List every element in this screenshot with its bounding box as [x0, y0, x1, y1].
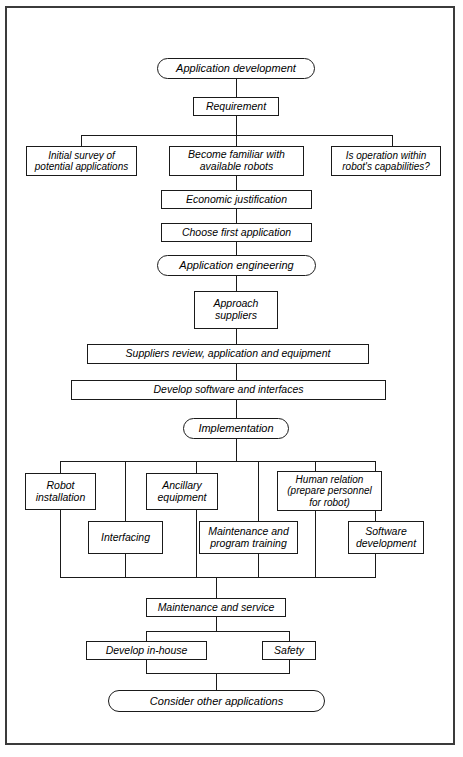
node-label: Is operation within robot's capabilities…: [332, 150, 440, 172]
node-label: Develop in-house: [87, 645, 206, 657]
node-application-engineering[interactable]: Application engineering: [157, 255, 316, 276]
node-label: Ancillary equipment: [147, 480, 217, 504]
connector-inhouse-merge: [146, 659, 147, 673]
node-approach-suppliers[interactable]: Approach suppliers: [194, 291, 278, 329]
node-robot-installation[interactable]: Robot installation: [25, 473, 96, 510]
connector-familiar-economic: [236, 175, 237, 190]
connector-implementation-bus: [236, 438, 237, 461]
connector-review-devsoftware: [236, 364, 237, 380]
node-application-development[interactable]: Application development: [157, 58, 315, 79]
node-label: Become familiar with available robots: [170, 149, 303, 173]
node-label: Implementation: [184, 422, 288, 434]
node-label: Human relation (prepare personnel for ro…: [278, 474, 381, 508]
node-label: Maintenance and service: [147, 602, 285, 614]
diagram-sheet: Application development Requirement Init…: [0, 0, 463, 757]
connector-drop-safety: [289, 631, 290, 641]
node-software-development[interactable]: Software development: [348, 521, 424, 554]
connector-bus-maintenance-service: [216, 577, 217, 598]
node-label: Choose first application: [162, 227, 311, 239]
connector-merge-consider: [216, 673, 217, 690]
connector-drop-become-familiar: [236, 135, 237, 146]
rail-maintenance-program-training: [258, 461, 259, 578]
connector-branch-bus-bottom: [60, 577, 376, 578]
connector-drop-develop-inhouse: [146, 631, 147, 641]
node-label: Application engineering: [158, 259, 315, 271]
node-develop-software[interactable]: Develop software and interfaces: [71, 380, 386, 400]
node-ancillary-equipment[interactable]: Ancillary equipment: [146, 473, 218, 510]
node-human-relation[interactable]: Human relation (prepare personnel for ro…: [277, 471, 382, 511]
connector-split-bus-lower: [146, 631, 289, 632]
connector-choose-appeng: [236, 241, 237, 255]
node-interfacing[interactable]: Interfacing: [88, 521, 163, 554]
node-label: Suppliers review, application and equipm…: [88, 348, 368, 360]
connector-appeng-approach: [236, 275, 237, 291]
connector-drop-is-operation: [392, 135, 393, 146]
node-label: Safety: [263, 645, 315, 657]
node-label: Initial survey of potential applications: [27, 150, 136, 172]
node-label: Requirement: [194, 101, 278, 113]
node-become-familiar[interactable]: Become familiar with available robots: [169, 146, 304, 176]
node-initial-survey[interactable]: Initial survey of potential applications: [26, 146, 137, 176]
node-choose-first-application[interactable]: Choose first application: [161, 223, 312, 242]
node-label: Robot installation: [26, 480, 95, 504]
connector-drop-initial-survey: [81, 135, 82, 146]
connector-branch-bus-top: [60, 461, 376, 462]
node-suppliers-review[interactable]: Suppliers review, application and equipm…: [87, 344, 369, 364]
node-economic-justification[interactable]: Economic justification: [161, 190, 312, 209]
node-label: Develop software and interfaces: [72, 384, 385, 396]
connector-economic-choose: [236, 208, 237, 223]
node-safety[interactable]: Safety: [262, 641, 316, 660]
node-maintenance-and-service[interactable]: Maintenance and service: [146, 598, 286, 617]
node-consider-other-applications[interactable]: Consider other applications: [108, 690, 325, 712]
node-label: Application development: [158, 62, 314, 74]
node-label: Software development: [349, 526, 423, 550]
node-is-operation-within[interactable]: Is operation within robot's capabilities…: [331, 146, 441, 176]
node-label: Interfacing: [89, 532, 162, 544]
node-label: Consider other applications: [109, 695, 324, 707]
connector-maintservice-split: [216, 616, 217, 631]
connector-approach-review: [236, 328, 237, 344]
node-maintenance-program-training[interactable]: Maintenance and program training: [199, 521, 298, 554]
connector-devsoftware-implementation: [236, 400, 237, 418]
connector-safety-merge: [289, 659, 290, 673]
connector-appdev-requirement: [236, 78, 237, 97]
connector-requirement-bus: [236, 115, 237, 135]
node-label: Economic justification: [162, 194, 311, 206]
node-requirement[interactable]: Requirement: [193, 97, 279, 116]
connector-merge-bus-final: [146, 673, 290, 674]
node-label: Approach suppliers: [195, 298, 277, 322]
rail-interfacing: [125, 461, 126, 578]
flowchart-canvas: Application development Requirement Init…: [0, 0, 463, 757]
node-implementation[interactable]: Implementation: [183, 418, 289, 439]
node-develop-in-house[interactable]: Develop in-house: [86, 641, 207, 660]
node-label: Maintenance and program training: [200, 526, 297, 550]
